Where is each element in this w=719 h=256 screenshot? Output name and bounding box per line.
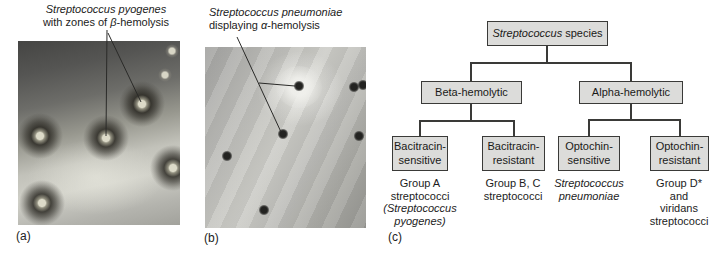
panel-a-title: Streptococcus pyogenes with zones of β-h… [8, 3, 204, 29]
panel-a-subtitle: with zones of β-hemolysis [8, 16, 204, 29]
colony-with-hemolysis-zone [82, 114, 130, 162]
connector-line [630, 103, 632, 120]
connector-line [470, 103, 472, 121]
petri-photo-alpha-hemolysis [205, 47, 366, 228]
connector-line [470, 62, 472, 81]
connector-line [679, 119, 681, 136]
colony [294, 47, 308, 48]
caption-line: Streptococcus [554, 177, 624, 190]
caption-group-d-viridans: Group D* and viridans streptococci [650, 177, 709, 227]
species-name-b: Streptococcus pneumoniae [209, 6, 342, 19]
colony-with-hemolysis-zone [149, 144, 180, 192]
caption-line: Group D* [650, 177, 709, 190]
petri-photo-beta-hemolysis [18, 41, 180, 225]
caption-line: Group B, C [484, 177, 543, 190]
colony [354, 131, 365, 142]
flowchart-box-alpha-hemolytic: Alpha-hemolytic [579, 81, 683, 104]
flowchart-box-optochin-sensitive: Optochin- sensitive [558, 136, 620, 171]
colony-with-hemolysis-zone [118, 80, 166, 128]
connector-line [419, 120, 514, 122]
panel-b-title: Streptococcus pneumoniae displaying α-he… [209, 6, 342, 32]
colony [165, 44, 179, 58]
colony [293, 80, 305, 92]
connector-line [546, 46, 548, 62]
connector-line [588, 119, 680, 121]
panel-label-a: (a) [16, 229, 31, 243]
connector-line [630, 62, 632, 81]
colony [278, 129, 289, 140]
colony [222, 151, 233, 162]
caption-line: and viridans [650, 190, 709, 215]
caption-line: pyogenes) [383, 215, 456, 228]
caption-line: pneumoniae [554, 190, 624, 203]
caption-group-bc-streptococci: Group B, C streptococci [484, 177, 543, 202]
flowchart-box-optochin-resistant: Optochin- resistant [650, 136, 709, 171]
caption-line: streptococci [650, 215, 709, 228]
caption-line: streptococci [484, 190, 543, 203]
caption-line: streptococci [383, 190, 456, 203]
colony-with-hemolysis-zone [18, 175, 70, 225]
colony-with-hemolysis-zone [18, 112, 64, 160]
connector-line [513, 120, 515, 136]
connector-line [470, 62, 631, 64]
panel-b-subtitle: displaying α-hemolysis [209, 19, 342, 32]
panel-label-b: (b) [204, 231, 219, 245]
connector-line [419, 120, 421, 136]
flowchart-root-box: Streptococcus species [487, 21, 608, 46]
caption-line: (Streptococcus [383, 202, 456, 215]
caption-line: Group A [383, 177, 456, 190]
flowchart-box-bacitracin-resistant: Bacitracin- resistant [482, 136, 545, 171]
panel-label-c: (c) [388, 230, 402, 244]
connector-line [588, 119, 590, 136]
species-name-a: Streptococcus pyogenes [8, 3, 204, 16]
colony [158, 68, 172, 82]
caption-group-a-streptococci: Group A streptococci (Streptococcus pyog… [383, 177, 456, 227]
flowchart-box-beta-hemolytic: Beta-hemolytic [421, 81, 522, 104]
figure-container: Streptococcus pyogenes with zones of β-h… [0, 0, 719, 256]
caption-streptococcus-pneumoniae: Streptococcus pneumoniae [554, 177, 624, 202]
colony [358, 80, 367, 91]
flowchart-box-bacitracin-sensitive: Bacitracin- sensitive [392, 136, 448, 171]
colony [259, 205, 270, 216]
